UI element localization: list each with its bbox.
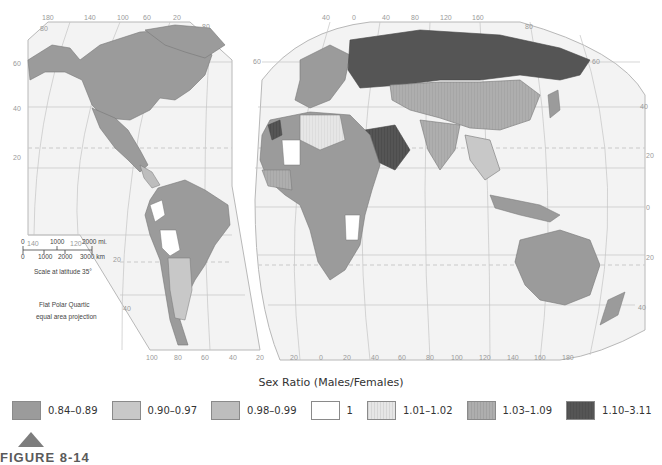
legend-label: 1.01–1.02 xyxy=(403,405,453,416)
svg-text:40: 40 xyxy=(371,354,379,361)
svg-text:60: 60 xyxy=(13,60,21,67)
svg-text:1000: 1000 xyxy=(38,253,53,260)
legend-item-6: 1.10–3.11 xyxy=(566,401,652,420)
svg-text:120: 120 xyxy=(70,240,82,247)
legend-label: 1.03–1.09 xyxy=(503,405,553,416)
legend-label: 0.90–0.97 xyxy=(148,405,198,416)
svg-text:0: 0 xyxy=(646,204,650,211)
svg-text:40: 40 xyxy=(322,14,330,21)
americas-bottom-longitude-ticks: 100 80 60 40 20 xyxy=(146,354,264,361)
svg-text:3000 km: 3000 km xyxy=(80,253,105,260)
svg-text:60: 60 xyxy=(253,58,261,65)
legend-item-2: 0.98–0.99 xyxy=(211,401,297,420)
svg-text:0: 0 xyxy=(319,354,323,361)
svg-text:180: 180 xyxy=(562,354,574,361)
legend-item-4: 1.01–1.02 xyxy=(367,401,453,420)
svg-text:40: 40 xyxy=(382,14,390,21)
svg-text:0: 0 xyxy=(352,14,356,21)
legend-item-5: 1.03–1.09 xyxy=(467,401,553,420)
legend-label: 1.10–3.11 xyxy=(602,405,652,416)
svg-text:1000: 1000 xyxy=(50,238,65,245)
svg-text:20: 20 xyxy=(113,256,121,263)
svg-text:40: 40 xyxy=(13,105,21,112)
svg-text:40: 40 xyxy=(123,305,131,312)
svg-text:0: 0 xyxy=(21,253,25,260)
svg-text:80: 80 xyxy=(411,14,419,21)
legend-swatch xyxy=(311,401,340,420)
svg-text:60: 60 xyxy=(143,14,151,21)
svg-text:20: 20 xyxy=(173,14,181,21)
legend-label: 0.98–0.99 xyxy=(247,405,297,416)
svg-text:60: 60 xyxy=(398,354,406,361)
legend-swatch xyxy=(12,401,41,420)
eastern-hemisphere-panel xyxy=(255,22,645,360)
svg-text:2000 mi.: 2000 mi. xyxy=(82,238,107,245)
svg-text:80: 80 xyxy=(426,354,434,361)
svg-text:100: 100 xyxy=(451,354,463,361)
svg-text:0: 0 xyxy=(21,238,25,245)
legend-title: Sex Ratio (Males/Females) xyxy=(0,376,662,389)
svg-text:140: 140 xyxy=(27,240,39,247)
legend-swatch xyxy=(112,401,141,420)
legend-swatch xyxy=(566,401,595,420)
legend-item-1: 0.90–0.97 xyxy=(112,401,198,420)
svg-text:180: 180 xyxy=(42,14,54,21)
svg-text:100: 100 xyxy=(117,14,129,21)
svg-text:20: 20 xyxy=(290,354,298,361)
figure-marker-icon xyxy=(18,432,44,447)
svg-text:20: 20 xyxy=(13,154,21,161)
svg-text:140: 140 xyxy=(507,354,519,361)
svg-text:120: 120 xyxy=(440,14,452,21)
svg-text:Flat Polar Quartic: Flat Polar Quartic xyxy=(39,301,90,309)
svg-text:60: 60 xyxy=(201,354,209,361)
legend-swatch xyxy=(367,401,396,420)
svg-text:20: 20 xyxy=(646,254,654,261)
svg-text:80: 80 xyxy=(40,25,48,32)
svg-text:160: 160 xyxy=(472,14,484,21)
svg-text:20: 20 xyxy=(256,354,264,361)
svg-text:20: 20 xyxy=(343,354,351,361)
svg-text:Scale at latitude 35°: Scale at latitude 35° xyxy=(34,268,92,275)
svg-text:40: 40 xyxy=(640,103,648,110)
svg-text:140: 140 xyxy=(84,14,96,21)
svg-text:40: 40 xyxy=(638,304,646,311)
americas-top-longitude-ticks: 180 140 100 60 20 xyxy=(42,14,181,21)
svg-text:60: 60 xyxy=(592,58,600,65)
svg-text:equal area projection: equal area projection xyxy=(36,313,97,321)
east-top-longitude-ticks: 40 0 40 80 120 160 xyxy=(322,14,484,21)
svg-text:20: 20 xyxy=(646,152,654,159)
legend: 0.84–0.89 0.90–0.97 0.98–0.99 1 1.01–1.0… xyxy=(12,401,662,420)
legend-label: 1 xyxy=(347,405,353,416)
svg-text:80: 80 xyxy=(174,354,182,361)
svg-text:160: 160 xyxy=(534,354,546,361)
legend-item-3: 1 xyxy=(311,401,353,420)
figure-label: FIGURE 8-14 xyxy=(0,450,90,465)
svg-text:2000: 2000 xyxy=(58,253,73,260)
legend-swatch xyxy=(211,401,240,420)
projection-note: Flat Polar Quartic equal area projection xyxy=(36,301,97,321)
svg-text:80: 80 xyxy=(525,23,533,30)
legend-label: 0.84–0.89 xyxy=(48,405,98,416)
svg-text:120: 120 xyxy=(479,354,491,361)
legend-swatch xyxy=(467,401,496,420)
svg-text:100: 100 xyxy=(146,354,158,361)
world-map: 180 140 100 60 20 80 60 40 20 80 60 140 … xyxy=(0,0,662,370)
svg-text:80: 80 xyxy=(202,23,210,30)
legend-item-0: 0.84–0.89 xyxy=(12,401,98,420)
svg-text:40: 40 xyxy=(229,354,237,361)
